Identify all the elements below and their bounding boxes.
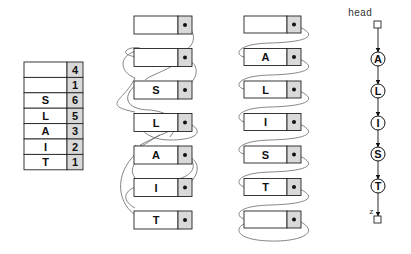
tail-label: z [369, 207, 374, 216]
tail-sentinel [374, 216, 381, 223]
list-node [134, 16, 192, 34]
table-row: I2 [24, 139, 83, 154]
pointer-dot-icon [183, 56, 187, 60]
linked-node-key: I [376, 117, 379, 129]
table-row: A3 [24, 124, 83, 139]
linked-node-key: L [375, 85, 382, 97]
node-key-text: A [262, 51, 270, 63]
index-text: 5 [72, 110, 78, 122]
list-node [244, 16, 301, 33]
pointer-dot-icon [183, 218, 187, 222]
list-node: I [134, 179, 192, 197]
head-label: head [348, 8, 372, 19]
diagram-canvas: 41S6L5A3I2T1 SLAIT ALIST [0, 0, 411, 254]
linked-node: S [371, 147, 385, 161]
list-node: S [134, 81, 192, 99]
unsorted-list: SLAIT [134, 16, 192, 229]
list-node: S [244, 146, 301, 163]
diagram-svg: 41S6L5A3I2T1 SLAIT ALIST [0, 0, 411, 254]
list-node [134, 49, 192, 67]
index-text: 6 [72, 94, 78, 106]
pointer-dot-icon [183, 186, 187, 190]
key-cell [24, 77, 67, 92]
list-node: T [134, 211, 192, 229]
node-key-cell [134, 16, 178, 34]
linked-node-key: T [375, 180, 382, 192]
linked-node-key: A [374, 53, 382, 65]
table-row: L5 [24, 108, 83, 123]
node-key-text: S [152, 84, 159, 96]
pointer-dot-icon [183, 23, 187, 27]
pointer-dot-icon [292, 88, 296, 92]
index-text: 4 [72, 64, 79, 76]
table-row: T1 [24, 154, 83, 169]
pointer-dot-icon [292, 218, 296, 222]
pointer-dot-icon [183, 88, 187, 92]
node-key-text: I [264, 116, 267, 128]
node-key-text: S [262, 149, 269, 161]
key-cell [24, 62, 67, 77]
table-row: S6 [24, 93, 83, 108]
pointer-dot-icon [292, 120, 296, 124]
index-text: 1 [72, 79, 78, 91]
table-row: 1 [24, 77, 83, 92]
node-key-text: I [154, 182, 157, 194]
node-key-text: A [152, 149, 160, 161]
linked-node: L [371, 84, 385, 98]
node-key-text: T [153, 214, 160, 226]
index-text: 3 [72, 125, 78, 137]
key-text: L [42, 110, 49, 122]
head-sentinel [374, 21, 381, 28]
list-node: L [134, 114, 192, 132]
sorted-array-list: ALIST [244, 16, 301, 228]
node-key-cell [244, 211, 287, 228]
index-text: 1 [72, 156, 78, 168]
pointer-dot-icon [292, 55, 296, 59]
pointer-dot-icon [183, 153, 187, 157]
pointer-dot-icon [183, 121, 187, 125]
index-table: 41S6L5A3I2T1 [24, 62, 83, 170]
list-node: A [134, 146, 192, 164]
linked-node: A [371, 52, 385, 66]
list-node: I [244, 114, 301, 131]
key-text: S [42, 94, 49, 106]
linked-node: T [371, 179, 385, 193]
node-key-text: L [262, 84, 269, 96]
node-key-text: L [153, 117, 160, 129]
list-node: A [244, 49, 301, 66]
index-text: 2 [72, 141, 78, 153]
node-key-cell [134, 49, 178, 67]
pointer-dot-icon [292, 153, 296, 157]
linked-list: head ALIST z [348, 8, 385, 223]
pointer-dot-icon [292, 185, 296, 189]
key-text: T [42, 156, 49, 168]
key-text: I [44, 141, 47, 153]
list-node: T [244, 179, 301, 196]
node-key-cell [244, 16, 287, 33]
list-node [244, 211, 301, 228]
linked-node: I [371, 116, 385, 130]
pointer-dot-icon [292, 23, 296, 27]
node-key-text: T [262, 181, 269, 193]
linked-node-key: S [374, 148, 381, 160]
table-row: 4 [24, 62, 83, 77]
list-node: L [244, 81, 301, 98]
key-text: A [42, 125, 50, 137]
